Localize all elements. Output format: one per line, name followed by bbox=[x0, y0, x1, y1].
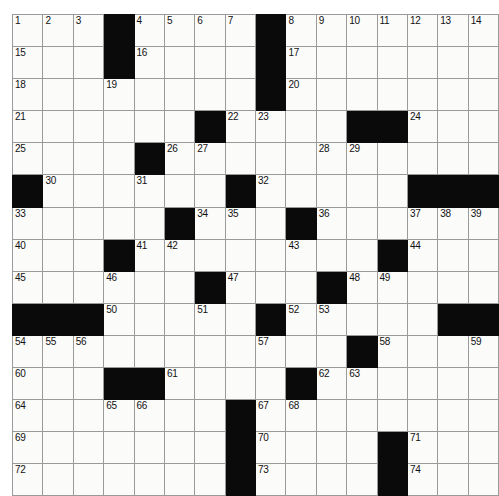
crossword-cell[interactable] bbox=[407, 368, 437, 400]
crossword-cell[interactable]: 28 bbox=[316, 143, 346, 175]
crossword-cell[interactable]: 41 bbox=[134, 239, 164, 271]
crossword-cell[interactable] bbox=[225, 335, 255, 367]
crossword-cell[interactable] bbox=[256, 207, 286, 239]
crossword-cell[interactable] bbox=[407, 303, 437, 335]
crossword-cell[interactable]: 68 bbox=[286, 400, 316, 432]
crossword-cell[interactable]: 56 bbox=[73, 335, 103, 367]
crossword-cell[interactable]: 48 bbox=[347, 271, 377, 303]
crossword-cell[interactable] bbox=[407, 335, 437, 367]
crossword-cell[interactable] bbox=[164, 400, 194, 432]
crossword-cell[interactable] bbox=[164, 47, 194, 79]
crossword-cell[interactable] bbox=[256, 143, 286, 175]
crossword-cell[interactable] bbox=[104, 143, 134, 175]
crossword-cell[interactable]: 15 bbox=[13, 47, 43, 79]
crossword-cell[interactable]: 27 bbox=[195, 143, 225, 175]
crossword-cell[interactable]: 7 bbox=[225, 15, 255, 47]
crossword-cell[interactable] bbox=[377, 303, 407, 335]
crossword-cell[interactable]: 44 bbox=[407, 239, 437, 271]
crossword-cell[interactable] bbox=[316, 111, 346, 143]
crossword-cell[interactable]: 53 bbox=[316, 303, 346, 335]
crossword-cell[interactable] bbox=[468, 79, 498, 111]
crossword-cell[interactable] bbox=[104, 335, 134, 367]
crossword-cell[interactable]: 46 bbox=[104, 271, 134, 303]
crossword-cell[interactable] bbox=[347, 207, 377, 239]
crossword-cell[interactable] bbox=[73, 79, 103, 111]
crossword-cell[interactable] bbox=[256, 239, 286, 271]
crossword-cell[interactable] bbox=[43, 368, 73, 400]
crossword-cell[interactable] bbox=[164, 111, 194, 143]
crossword-cell[interactable]: 34 bbox=[195, 207, 225, 239]
crossword-cell[interactable] bbox=[73, 464, 103, 496]
crossword-cell[interactable] bbox=[43, 239, 73, 271]
crossword-cell[interactable] bbox=[468, 400, 498, 432]
crossword-cell[interactable]: 55 bbox=[43, 335, 73, 367]
crossword-cell[interactable] bbox=[316, 432, 346, 464]
crossword-cell[interactable] bbox=[347, 175, 377, 207]
crossword-cell[interactable] bbox=[316, 175, 346, 207]
crossword-cell[interactable] bbox=[286, 143, 316, 175]
crossword-cell[interactable] bbox=[164, 432, 194, 464]
crossword-cell[interactable]: 42 bbox=[164, 239, 194, 271]
crossword-cell[interactable] bbox=[316, 400, 346, 432]
crossword-cell[interactable] bbox=[195, 335, 225, 367]
crossword-cell[interactable]: 30 bbox=[43, 175, 73, 207]
crossword-cell[interactable]: 61 bbox=[164, 368, 194, 400]
crossword-cell[interactable] bbox=[43, 79, 73, 111]
crossword-cell[interactable]: 3 bbox=[73, 15, 103, 47]
crossword-cell[interactable]: 13 bbox=[438, 15, 468, 47]
crossword-cell[interactable] bbox=[134, 464, 164, 496]
crossword-cell[interactable]: 18 bbox=[13, 79, 43, 111]
crossword-cell[interactable] bbox=[438, 271, 468, 303]
crossword-cell[interactable] bbox=[256, 368, 286, 400]
crossword-cell[interactable] bbox=[347, 432, 377, 464]
crossword-cell[interactable]: 36 bbox=[316, 207, 346, 239]
crossword-cell[interactable] bbox=[468, 271, 498, 303]
crossword-cell[interactable] bbox=[347, 400, 377, 432]
crossword-cell[interactable] bbox=[73, 47, 103, 79]
crossword-cell[interactable]: 62 bbox=[316, 368, 346, 400]
crossword-cell[interactable] bbox=[438, 143, 468, 175]
crossword-cell[interactable] bbox=[316, 79, 346, 111]
crossword-cell[interactable] bbox=[164, 79, 194, 111]
crossword-cell[interactable]: 23 bbox=[256, 111, 286, 143]
crossword-cell[interactable] bbox=[316, 47, 346, 79]
crossword-cell[interactable]: 29 bbox=[347, 143, 377, 175]
crossword-cell[interactable] bbox=[468, 47, 498, 79]
crossword-cell[interactable] bbox=[377, 143, 407, 175]
crossword-cell[interactable] bbox=[43, 400, 73, 432]
crossword-cell[interactable] bbox=[104, 111, 134, 143]
crossword-cell[interactable]: 26 bbox=[164, 143, 194, 175]
crossword-cell[interactable] bbox=[407, 79, 437, 111]
crossword-cell[interactable] bbox=[377, 47, 407, 79]
crossword-cell[interactable] bbox=[195, 368, 225, 400]
crossword-cell[interactable] bbox=[438, 335, 468, 367]
crossword-cell[interactable]: 10 bbox=[347, 15, 377, 47]
crossword-cell[interactable]: 51 bbox=[195, 303, 225, 335]
crossword-cell[interactable] bbox=[316, 464, 346, 496]
crossword-cell[interactable] bbox=[43, 464, 73, 496]
crossword-cell[interactable] bbox=[407, 143, 437, 175]
crossword-cell[interactable] bbox=[104, 464, 134, 496]
crossword-cell[interactable] bbox=[347, 47, 377, 79]
crossword-cell[interactable] bbox=[164, 271, 194, 303]
crossword-grid[interactable]: 1234567891011121314151617181920212223242… bbox=[12, 14, 499, 496]
crossword-cell[interactable]: 14 bbox=[468, 15, 498, 47]
crossword-cell[interactable]: 69 bbox=[13, 432, 43, 464]
crossword-cell[interactable] bbox=[377, 79, 407, 111]
crossword-cell[interactable] bbox=[134, 335, 164, 367]
crossword-cell[interactable] bbox=[468, 368, 498, 400]
crossword-cell[interactable] bbox=[73, 239, 103, 271]
crossword-cell[interactable]: 45 bbox=[13, 271, 43, 303]
crossword-cell[interactable] bbox=[195, 464, 225, 496]
crossword-cell[interactable] bbox=[347, 239, 377, 271]
crossword-cell[interactable]: 1 bbox=[13, 15, 43, 47]
crossword-cell[interactable] bbox=[195, 239, 225, 271]
crossword-cell[interactable]: 38 bbox=[438, 207, 468, 239]
crossword-cell[interactable] bbox=[73, 207, 103, 239]
crossword-cell[interactable]: 50 bbox=[104, 303, 134, 335]
crossword-cell[interactable]: 22 bbox=[225, 111, 255, 143]
crossword-cell[interactable] bbox=[134, 432, 164, 464]
crossword-cell[interactable] bbox=[316, 335, 346, 367]
crossword-cell[interactable]: 2 bbox=[43, 15, 73, 47]
crossword-cell[interactable] bbox=[43, 207, 73, 239]
